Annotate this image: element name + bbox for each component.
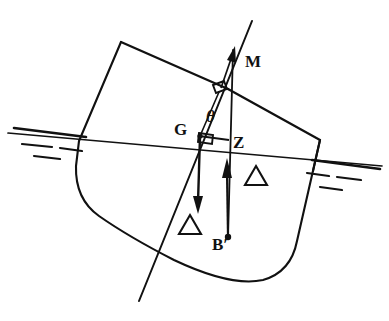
label-centre-of-gravity: G [174,120,187,139]
label-righting-arm-point: Z [233,133,244,152]
weight-arrow-head [193,196,203,214]
buoyancy-arrow-shaft [227,172,228,236]
label-centre-of-buoyancy: B′ [212,235,228,254]
water-mark-left-4 [34,156,60,159]
inclined-centreline [139,21,252,301]
label-heel-angle: θ [206,107,215,126]
weight-arrow-shaft [198,137,200,202]
weight-delta-symbol [179,215,201,234]
deck-line [121,42,228,89]
water-mark-right-2 [307,173,329,176]
water-mark-left-1 [14,128,86,137]
m-arrow-head [227,46,236,63]
stability-diagram-canvas: M G Z B′ θ [0,0,389,321]
water-mark-left-2 [22,144,52,147]
buoyancy-delta-symbol [245,166,267,185]
hull-group [76,42,320,281]
hull-outline-path [76,42,320,281]
starboard-topside-edge [313,140,320,171]
labels-group: M G Z B′ θ [174,52,261,254]
water-mark-right-3 [337,177,361,180]
waterline-group [8,128,382,190]
ship-stability-diagram: M G Z B′ θ [0,0,389,321]
label-metacentre: M [245,52,261,71]
inclined-centreline-group [139,21,252,301]
water-mark-right-4 [320,187,342,190]
